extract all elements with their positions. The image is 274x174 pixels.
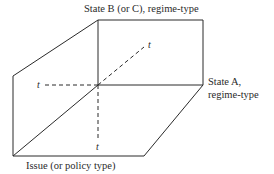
edge-top-left-slant [13, 20, 98, 76]
state-a-label-line2: regime-type [208, 89, 259, 101]
three-dimensional-policy-space-diagram: State B (or C), regime-type State A, reg… [0, 0, 274, 174]
issue-axis [13, 85, 98, 156]
t-marker-left: t [37, 80, 40, 90]
state-b-label: State B (or C), regime-type [84, 3, 199, 15]
dashed-diagonal-t [98, 47, 144, 85]
edge-bottom-right-slant [144, 85, 203, 156]
t-marker-bottom: t [96, 142, 99, 152]
t-marker-diagonal: t [148, 40, 151, 50]
state-a-label-line1: State A, [208, 76, 241, 88]
issue-label: Issue (or policy type) [26, 160, 116, 172]
